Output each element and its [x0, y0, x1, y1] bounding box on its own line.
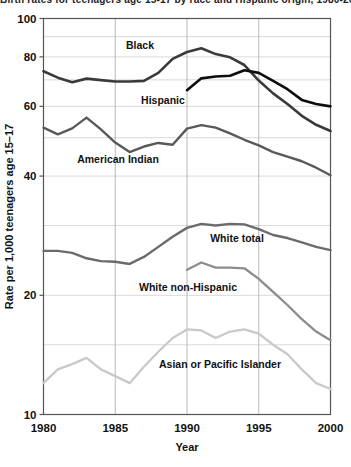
- chart-title-clipped: Birth rates for teenagers age 15-17 by r…: [0, 0, 351, 9]
- series-inline-labels: Black Hispanic American Indian White tot…: [77, 39, 281, 370]
- series-label-black: Black: [126, 39, 154, 51]
- series-label-asian-pacific-islander: Asian or Pacific Islander: [159, 358, 281, 370]
- x-axis-tick-labels: 19801985199019952000: [31, 422, 344, 434]
- x-axis-title: Year: [175, 441, 199, 453]
- y-tick-label-100: 100: [17, 13, 36, 25]
- series-label-white-total: White total: [210, 232, 264, 244]
- y-axis-tick-labels: 1008060402010: [17, 13, 43, 421]
- x-tick-label-1985: 1985: [102, 422, 128, 434]
- chart-title-text: Birth rates for teenagers age 15-17 by r…: [0, 0, 351, 4]
- y-tick-label-20: 20: [24, 289, 37, 301]
- y-axis-title: Rate per 1,000 teenagers age 15–17: [3, 124, 15, 309]
- series-label-white-non-hispanic: White non-Hispanic: [139, 281, 237, 293]
- x-tick-label-1990: 1990: [174, 422, 200, 434]
- x-tick-label-1980: 1980: [31, 422, 57, 434]
- chart-container: Birth rates for teenagers age 15-17 by r…: [0, 0, 351, 467]
- y-tick-label-10: 10: [24, 409, 37, 421]
- y-tick-label-80: 80: [24, 51, 37, 63]
- vertical-gridlines-group: [115, 19, 259, 415]
- line-chart-svg: 1008060402010 19801985199019952000 Rate …: [0, 0, 351, 467]
- x-tick-label-2000: 2000: [318, 422, 344, 434]
- series-label-hispanic: Hispanic: [141, 94, 185, 106]
- y-tick-label-40: 40: [24, 170, 37, 182]
- x-tick-label-1995: 1995: [246, 422, 272, 434]
- y-tick-label-60: 60: [24, 100, 37, 112]
- series-label-american-indian: American Indian: [77, 153, 159, 165]
